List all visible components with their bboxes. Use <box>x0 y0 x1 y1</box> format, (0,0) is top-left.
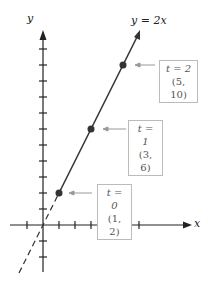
point-t2 <box>120 62 127 69</box>
y-axis-label: y <box>27 12 33 25</box>
t-value: t = 0 <box>102 186 127 212</box>
x-axis-label: x <box>194 217 200 230</box>
point-label-t2: t = 2 (5, 10) <box>159 60 198 103</box>
line-equation-label: y = 2x <box>131 14 167 27</box>
y-axis <box>39 30 47 272</box>
coordinates: (5, 10) <box>164 75 193 101</box>
diagram-canvas <box>0 0 208 289</box>
coordinates: (3, 6) <box>133 148 158 174</box>
point-label-t0: t = 0 (1, 2) <box>97 184 132 240</box>
point-t0 <box>56 190 63 197</box>
point-t1 <box>88 126 95 133</box>
t-value: t = 2 <box>164 62 193 75</box>
coordinates: (1, 2) <box>102 212 127 238</box>
t-value: t = 1 <box>133 122 158 148</box>
point-label-t1: t = 1 (3, 6) <box>128 120 163 176</box>
